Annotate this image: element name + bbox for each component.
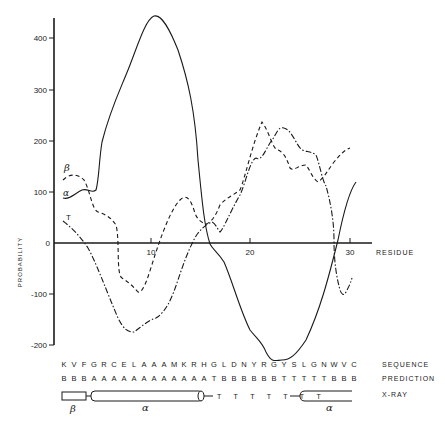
prediction-letter: A [101,374,106,383]
beta-curve [63,122,350,292]
prediction-row: BBBAAAAAAAAAAAATBBBBBBTTTTTBBB [61,374,356,383]
prediction-letter: A [91,374,96,383]
prediction-letter: T [312,374,317,383]
sequence-letter: V [341,360,346,369]
sequence-letter: G [91,360,97,369]
prediction-letter: T [322,374,327,383]
prediction-letter: T [212,374,217,383]
sequence-row: KVFGRCELAAAMKRHGLDNYRGYSLGNWVC [61,360,357,369]
x-axis-label: RESIDUE [376,249,414,256]
alpha-helix-cylinder [91,391,203,401]
legend-turn: T [66,213,71,222]
helix-end-cap [198,391,204,401]
sequence-letter: A [161,360,166,369]
y-tick-label: 200 [34,137,48,146]
prediction-letter: A [141,374,146,383]
y-tick-label: -200 [31,341,48,350]
y-tick-label: 0 [46,239,51,248]
legend-beta: β [63,162,70,173]
prediction-letter: B [231,374,236,383]
prediction-letter: B [351,374,356,383]
sequence-letter: G [211,360,217,369]
sequence-letter: L [132,360,136,369]
prediction-letter: A [131,374,136,383]
sequence-letter: C [351,360,357,369]
probability-chart: 400 300 200 100 0 -100 -200 PROBABILITY … [0,0,445,427]
prediction-letter: A [151,374,156,383]
prediction-letter: T [282,374,287,383]
beta-strand-box [62,392,86,400]
sequence-letter: L [302,360,306,369]
prediction-letter: A [201,374,206,383]
turn-curve [63,128,352,332]
prediction-letter: B [81,374,86,383]
xray-turns: T T T T T T T [217,393,326,400]
y-tick-label: 400 [34,34,48,43]
prediction-letter: T [292,374,297,383]
x-tick-label: 30 [346,248,355,257]
prediction-letter: B [261,374,266,383]
sequence-letter: W [330,360,338,369]
y-tick-label: -100 [31,290,48,299]
sequence-letter: G [271,360,277,369]
xray-beta-label: β [69,403,76,414]
prediction-label: PREDICTION [382,375,435,382]
xray-alpha-label: α [142,402,149,413]
xray-label: X-RAY [382,391,408,398]
prediction-letter: B [221,374,226,383]
sequence-letter: R [101,360,107,369]
sequence-letter: Y [281,360,286,369]
sequence-label: SEQUENCE [382,361,429,369]
sequence-letter: K [61,360,66,369]
prediction-letter: B [251,374,256,383]
y-tick-label: 100 [34,188,48,197]
xray-alpha-label: α [326,402,333,413]
prediction-letter: T [302,374,307,383]
prediction-letter: A [161,374,166,383]
y-axis-label: PROBABILITY [17,237,23,287]
sequence-letter: K [181,360,186,369]
prediction-letter: B [331,374,336,383]
sequence-letter: E [121,360,126,369]
sequence-letter: G [311,360,317,369]
sequence-letter: A [141,360,146,369]
prediction-letter: A [111,374,116,383]
alpha-curve [63,16,356,361]
sequence-letter: V [71,360,76,369]
prediction-letter: B [241,374,246,383]
y-tick-label: 300 [34,86,48,95]
sequence-letter: N [241,360,246,369]
prediction-letter: B [71,374,76,383]
sequence-letter: F [82,360,87,369]
prediction-letter: A [171,374,176,383]
prediction-letter: A [121,374,126,383]
sequence-letter: N [321,360,326,369]
sequence-letter: R [261,360,267,369]
sequence-letter: A [151,360,156,369]
prediction-letter: B [61,374,66,383]
sequence-letter: D [231,360,237,369]
y-ticks: 400 300 200 100 0 -100 -200 [31,34,54,350]
sequence-letter: S [291,360,296,369]
sequence-letter: Y [251,360,256,369]
prediction-letter: A [191,374,196,383]
prediction-letter: B [271,374,276,383]
legend-alpha: α [63,188,69,198]
prediction-letter: A [181,374,186,383]
x-tick-label: 20 [246,248,255,257]
prediction-letter: B [341,374,346,383]
sequence-letter: M [171,360,177,369]
sequence-letter: R [191,360,197,369]
x-ticks: 10 20 30 [147,238,355,257]
sequence-letter: H [201,360,206,369]
sequence-letter: L [222,360,226,369]
sequence-letter: C [111,360,117,369]
